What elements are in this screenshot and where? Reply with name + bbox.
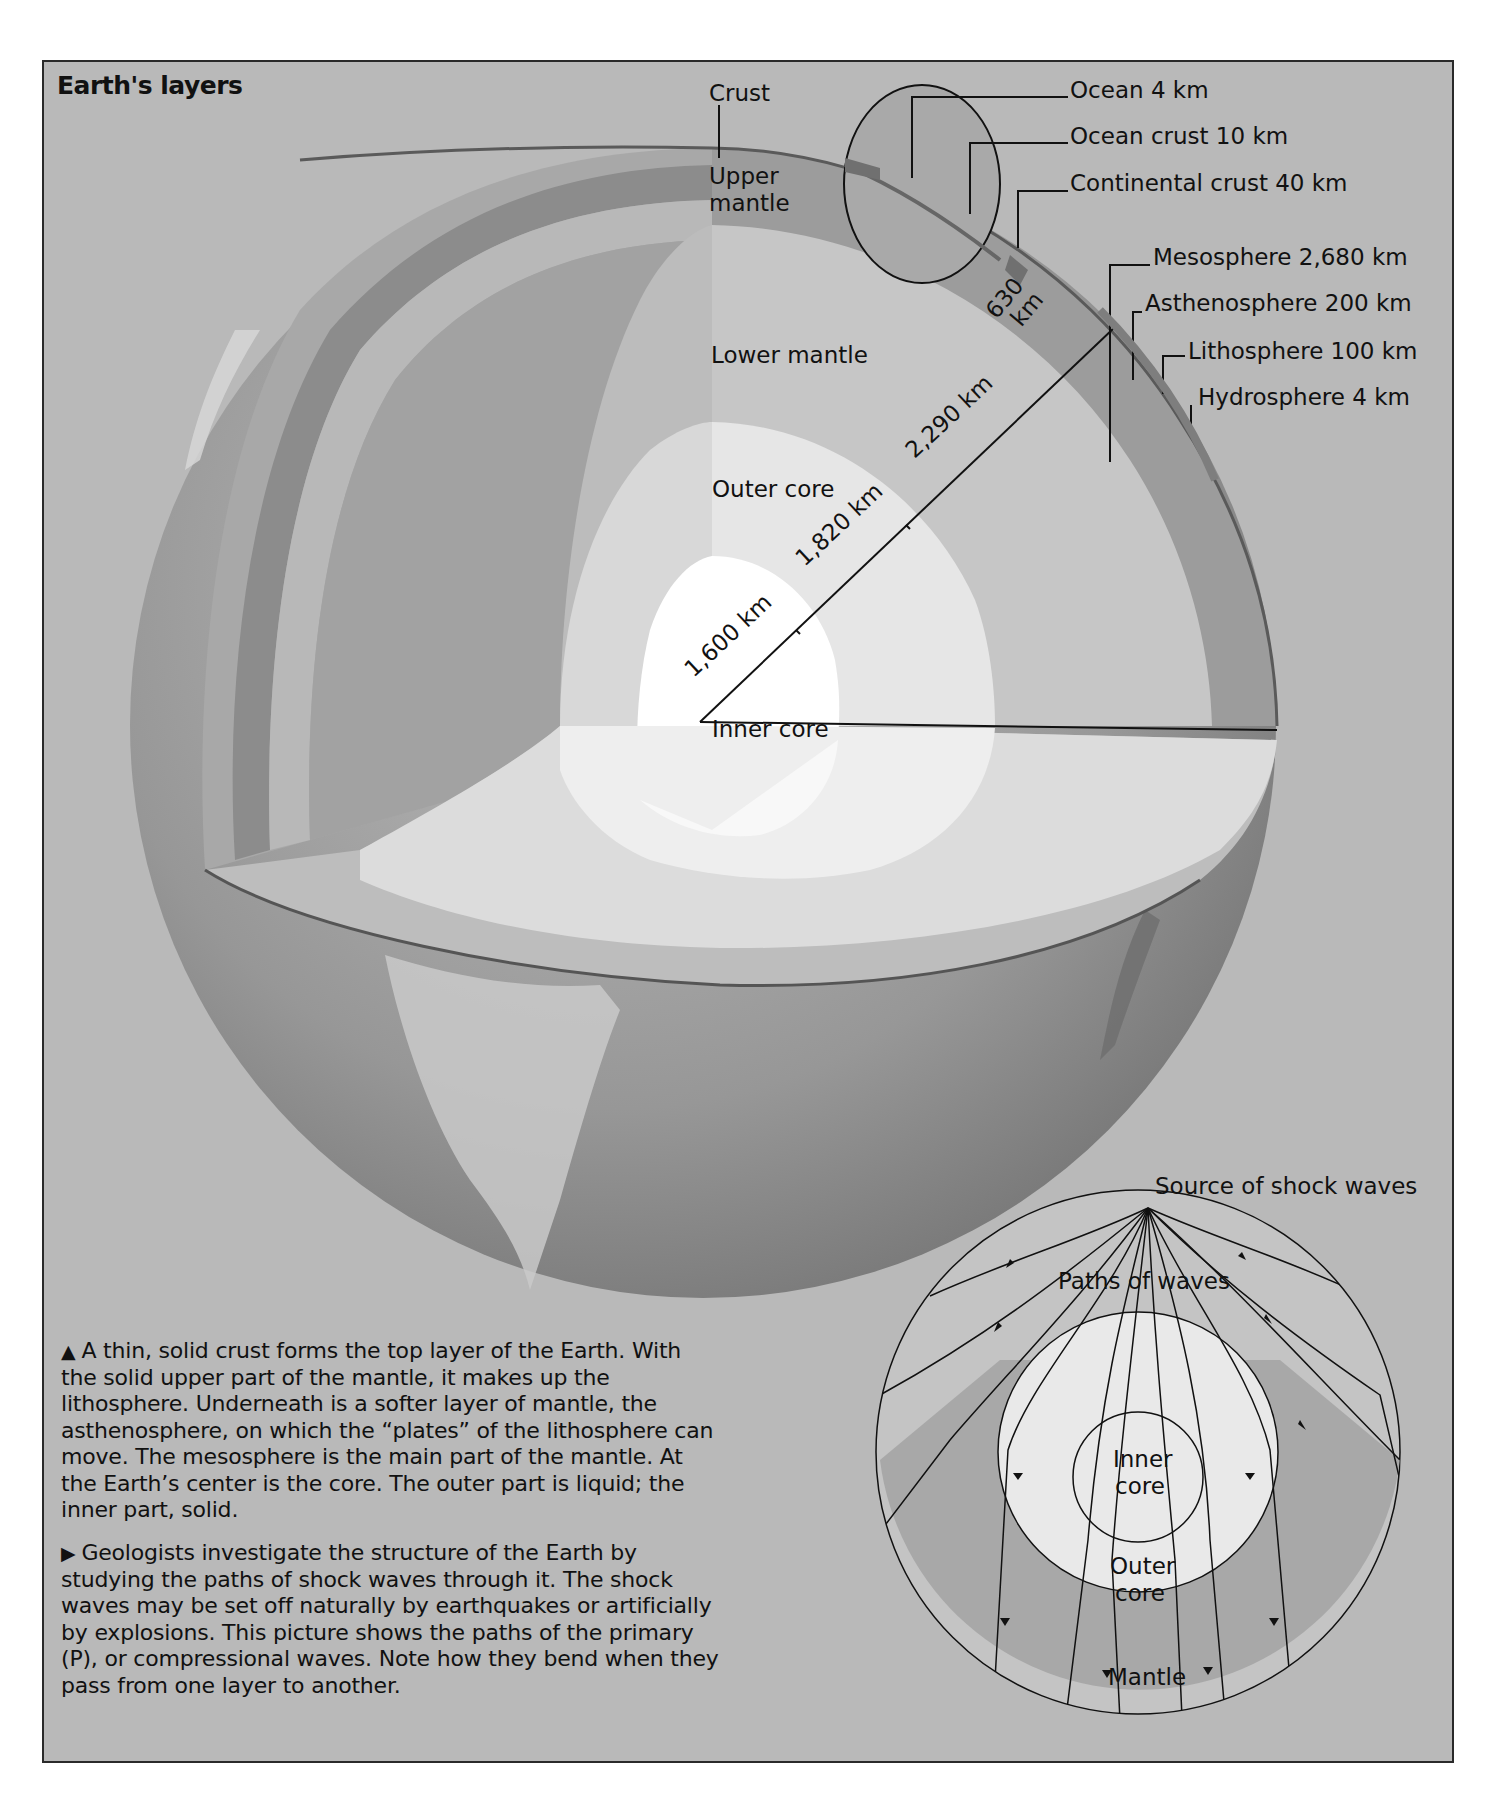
page-title: Earth's layers <box>57 71 242 100</box>
upper-mantle-label-line2: mantle <box>709 190 790 217</box>
wave-inner-core-label-line1: Inner <box>1113 1446 1173 1473</box>
triangle-right-icon: ▶ <box>61 1542 75 1564</box>
waves-caption-text: Geologists investigate the structure of … <box>61 1540 719 1698</box>
ocean-callout: Ocean 4 km <box>1070 77 1209 104</box>
wave-outer-core-label-line2: core <box>1115 1580 1165 1607</box>
shock-source-label: Source of shock waves <box>1155 1173 1417 1200</box>
wave-mantle-label: Mantle <box>1108 1664 1186 1691</box>
wave-paths-label: Paths of waves <box>1058 1268 1230 1295</box>
waves-caption: ▶Geologists investigate the structure of… <box>61 1540 721 1699</box>
crust-label: Crust <box>709 80 770 107</box>
crust-inset-magnifier <box>844 85 1068 285</box>
triangle-up-icon: ▲ <box>61 1340 75 1362</box>
wave-outer-core-label-line1: Outer <box>1110 1553 1175 1580</box>
continental-crust-callout: Continental crust 40 km <box>1070 170 1348 197</box>
hydrosphere-callout: Hydrosphere 4 km <box>1198 384 1410 411</box>
lithosphere-callout: Lithosphere 100 km <box>1188 338 1418 365</box>
wave-inner-core-label-line2: core <box>1115 1473 1165 1500</box>
layers-caption: ▲A thin, solid crust forms the top layer… <box>61 1338 721 1524</box>
ocean-crust-callout: Ocean crust 10 km <box>1070 123 1288 150</box>
mesosphere-callout: Mesosphere 2,680 km <box>1153 244 1408 271</box>
upper-mantle-label-line1: Upper <box>709 163 779 190</box>
lower-mantle-label: Lower mantle <box>711 342 868 369</box>
asthenosphere-callout: Asthenosphere 200 km <box>1145 290 1412 317</box>
layers-caption-text: A thin, solid crust forms the top layer … <box>61 1338 713 1522</box>
inner-core-label: Inner core <box>712 716 829 743</box>
outer-core-label: Outer core <box>712 476 834 503</box>
